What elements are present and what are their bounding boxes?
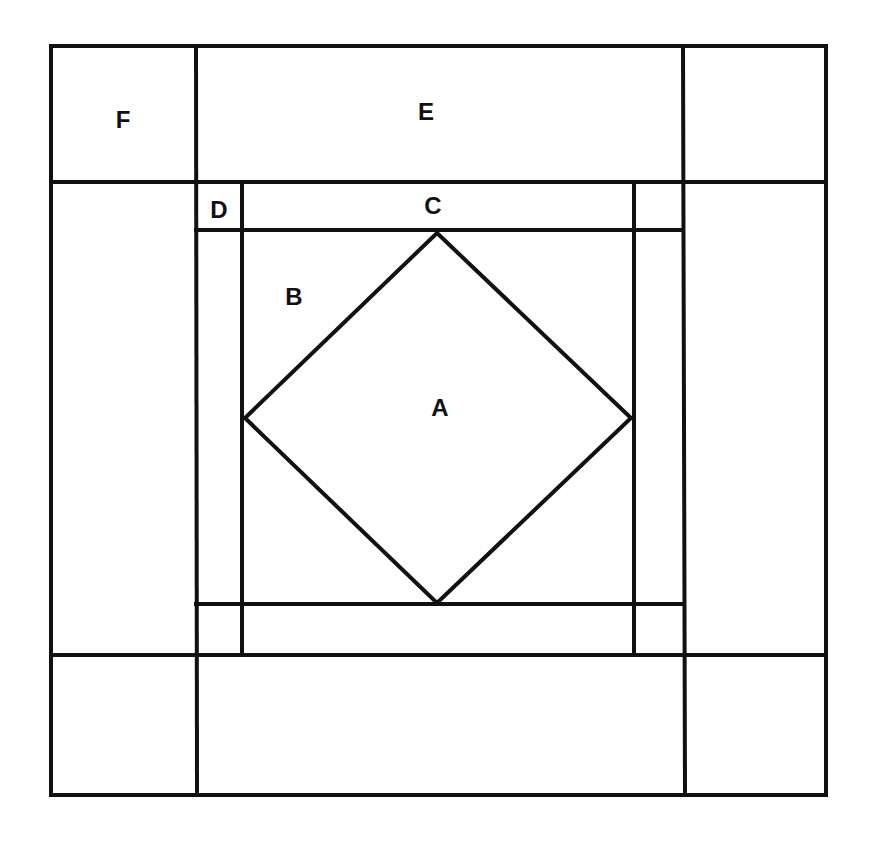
label-F: F bbox=[116, 106, 131, 134]
label-A: A bbox=[431, 394, 448, 422]
label-B: B bbox=[285, 283, 302, 311]
label-D: D bbox=[210, 196, 227, 224]
label-E: E bbox=[418, 98, 434, 126]
quilt-block-diagram bbox=[0, 0, 882, 844]
right-vertical-line bbox=[683, 46, 685, 795]
label-C: C bbox=[424, 192, 441, 220]
left-vertical-line bbox=[196, 46, 197, 795]
